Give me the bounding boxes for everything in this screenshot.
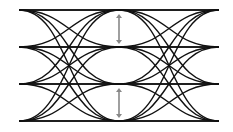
arrowhead-icon xyxy=(116,114,122,118)
eye-trace xyxy=(119,10,219,47)
eye-trace xyxy=(19,84,119,121)
arrowhead-icon xyxy=(116,88,122,92)
eye-trace xyxy=(19,10,119,47)
arrowhead-icon xyxy=(116,40,122,44)
eye-trace xyxy=(19,10,119,121)
arrowhead-icon xyxy=(116,14,122,18)
eye-opening-arrows xyxy=(116,14,122,118)
eye-diagram xyxy=(0,0,233,132)
eye-trace xyxy=(119,84,219,121)
eye-trace xyxy=(119,10,219,121)
